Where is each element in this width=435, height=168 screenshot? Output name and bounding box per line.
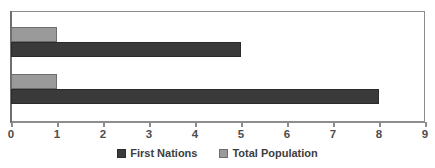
bar	[11, 27, 57, 42]
x-axis-tick-label: 9	[422, 127, 428, 141]
x-axis-tick-label: 4	[192, 127, 198, 141]
bar	[11, 42, 241, 57]
legend-label: First Nations	[130, 147, 197, 159]
x-axis-tick-label: 0	[8, 127, 14, 141]
bar-chart: 0123456789 First NationsTotal Population	[0, 0, 435, 168]
x-axis-tick-label: 8	[376, 127, 382, 141]
x-axis-tick-labels: 0123456789	[0, 127, 435, 143]
legend-item[interactable]: Total Population	[219, 147, 317, 159]
bar	[11, 89, 379, 104]
legend-swatch-icon	[117, 149, 126, 158]
x-axis-tick-label: 6	[284, 127, 290, 141]
x-axis-tick-label: 2	[100, 127, 106, 141]
bars-layer	[11, 11, 425, 122]
x-axis-tick-label: 7	[330, 127, 336, 141]
bar	[11, 74, 57, 89]
legend-swatch-icon	[219, 149, 228, 158]
chart-legend: First NationsTotal Population	[0, 144, 435, 162]
x-axis-tick-label: 3	[146, 127, 152, 141]
x-axis-tick-label: 1	[54, 127, 60, 141]
legend-label: Total Population	[232, 147, 317, 159]
x-axis-tick-label: 5	[238, 127, 244, 141]
legend-item[interactable]: First Nations	[117, 147, 197, 159]
